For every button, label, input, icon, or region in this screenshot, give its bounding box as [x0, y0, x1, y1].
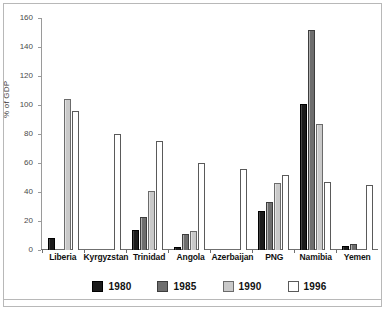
legend-label: 1990 [239, 281, 262, 292]
bar [190, 231, 197, 250]
bar [198, 163, 205, 250]
y-tick-label: 80 [0, 130, 33, 138]
bar [240, 169, 247, 250]
y-tick-label: 20 [0, 217, 33, 225]
bar [324, 182, 331, 250]
x-axis-label: Namibia [295, 252, 337, 262]
bar [64, 99, 71, 250]
y-tick-mark [38, 134, 41, 135]
bar-group [168, 18, 210, 250]
y-tick-mark [38, 221, 41, 222]
bar [274, 183, 281, 250]
legend-label: 1985 [173, 281, 196, 292]
y-tick-label: 120 [0, 72, 33, 80]
y-tick-label: 40 [0, 188, 33, 196]
y-tick-label: 0 [0, 246, 33, 254]
legend-item[interactable]: 1990 [223, 281, 262, 292]
bar-group [336, 18, 378, 250]
bar [114, 134, 121, 250]
bar [308, 30, 315, 250]
bar [148, 191, 155, 250]
legend-swatch-icon [288, 281, 299, 292]
bar [366, 185, 373, 250]
y-tick-mark [38, 105, 41, 106]
bar-groups [42, 18, 378, 250]
y-tick-mark [38, 192, 41, 193]
bar [300, 104, 307, 250]
bar [342, 246, 349, 250]
bar-group [252, 18, 294, 250]
bar [72, 111, 79, 250]
legend-item[interactable]: 1980 [92, 281, 131, 292]
bar [350, 244, 357, 250]
legend-swatch-icon [92, 281, 103, 292]
legend-swatch-icon [223, 281, 234, 292]
bar [258, 211, 265, 250]
legend-item[interactable]: 1985 [157, 281, 196, 292]
bar [156, 141, 163, 250]
y-axis-title: % of GDP [2, 81, 11, 118]
x-axis-label: Liberia [42, 252, 84, 262]
bar [174, 247, 181, 250]
y-tick-label: 100 [0, 101, 33, 109]
bar-group [210, 18, 252, 250]
bar-group [294, 18, 336, 250]
y-tick-mark [38, 163, 41, 164]
bar [266, 202, 273, 250]
y-tick-label: 60 [0, 159, 33, 167]
chart-screenshot: % of GDP 020406080100120140160 LiberiaKy… [0, 0, 385, 310]
x-axis-label: Yemen [336, 252, 378, 262]
y-tick-mark [38, 18, 41, 19]
bar [132, 230, 139, 250]
legend-divider [4, 299, 381, 300]
bar-group [126, 18, 168, 250]
y-tick-label: 160 [0, 14, 33, 22]
legend-label: 1996 [304, 281, 327, 292]
bar [282, 175, 289, 250]
bar [358, 249, 365, 250]
bar-group [84, 18, 126, 250]
legend-swatch-icon [157, 281, 168, 292]
x-axis-labels: LiberiaKyrgyzstanTrinidadAngolaAzerbaija… [42, 252, 378, 262]
legend-item[interactable]: 1996 [288, 281, 327, 292]
y-tick-label: 140 [0, 43, 33, 51]
x-axis-label: Kyrgyzstan [84, 252, 129, 262]
bar [48, 238, 55, 250]
x-axis-label: Angola [170, 252, 212, 262]
bar [316, 124, 323, 250]
y-tick-mark [38, 250, 41, 251]
y-tick-mark [38, 76, 41, 77]
y-tick-mark [38, 47, 41, 48]
x-axis-label: PNG [253, 252, 295, 262]
bar [182, 234, 189, 250]
bar [140, 217, 147, 250]
chart-legend: 1980198519901996 [41, 275, 378, 297]
plot-area: 020406080100120140160 [41, 18, 378, 250]
x-axis-label: Azerbaijan [211, 252, 253, 262]
bar-group [42, 18, 84, 250]
x-axis-label: Trinidad [128, 252, 170, 262]
legend-label: 1980 [108, 281, 131, 292]
